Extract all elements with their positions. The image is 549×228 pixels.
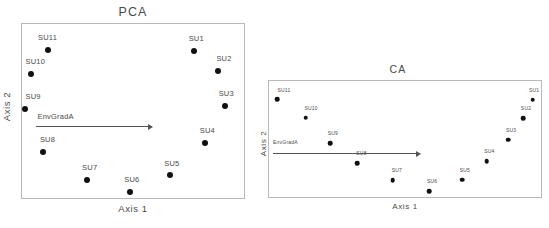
data-point-label: SU8	[40, 135, 55, 144]
data-point-label: SU10	[26, 57, 46, 66]
panel-pca-title: PCA	[21, 5, 245, 19]
data-point-label: SU2	[216, 54, 231, 63]
data-point[interactable]	[191, 48, 197, 54]
data-point[interactable]	[40, 149, 46, 155]
data-point-label: SU5	[164, 159, 179, 168]
data-point[interactable]	[355, 161, 360, 166]
data-point-label: SU6	[427, 178, 437, 184]
panel-pca-yaxis-label: Axis 2	[1, 81, 12, 133]
data-point-label: SU2	[521, 105, 531, 111]
data-point[interactable]	[202, 140, 208, 146]
data-point[interactable]	[222, 103, 228, 109]
data-point-label: SU11	[277, 87, 290, 93]
ordination-figure: PCA SU11 SU10 SU9 SU8 SU7 SU6 SU5	[0, 0, 549, 228]
data-point-label: SU10	[305, 105, 318, 111]
data-point[interactable]	[22, 106, 28, 112]
data-point[interactable]	[521, 116, 526, 121]
data-point[interactable]	[390, 178, 395, 183]
data-point[interactable]	[506, 137, 511, 142]
data-point[interactable]	[427, 189, 432, 194]
data-point[interactable]	[45, 47, 51, 53]
data-point[interactable]	[531, 97, 536, 102]
data-point-label: SU11	[38, 33, 57, 42]
data-point[interactable]	[167, 172, 173, 178]
data-point-label: SU1	[189, 34, 204, 43]
env-gradient-arrow-icon	[273, 153, 420, 154]
panel-ca-yaxis-label: Axis 2	[259, 115, 268, 173]
data-point[interactable]	[460, 177, 465, 182]
data-point-label: SU4	[484, 148, 494, 154]
data-point[interactable]	[127, 189, 133, 195]
data-point-label: SU3	[506, 127, 516, 133]
data-point-label: SU5	[460, 167, 470, 173]
data-point[interactable]	[328, 141, 333, 146]
data-point[interactable]	[215, 68, 221, 74]
data-point-label: SU7	[82, 163, 97, 172]
data-point-label: SU6	[124, 175, 139, 184]
panel-pca-xaxis-label: Axis 1	[21, 203, 245, 214]
panel-pca-plot-area: SU11 SU10 SU9 SU8 SU7 SU6 SU5 SU4 SU3	[21, 23, 245, 199]
env-gradient-label: EnvGradA	[38, 112, 74, 121]
data-point-label: SU7	[392, 167, 402, 173]
panel-ca-xaxis-label: Axis 1	[268, 202, 542, 211]
data-point-label: SU1	[529, 87, 539, 93]
data-point[interactable]	[303, 115, 308, 120]
data-point[interactable]	[484, 159, 489, 164]
env-gradient-arrow-icon	[36, 126, 151, 127]
data-point-label: SU9	[328, 130, 338, 136]
data-point-label: SU3	[219, 89, 234, 98]
data-point[interactable]	[84, 177, 90, 183]
panel-pca: PCA SU11 SU10 SU9 SU8 SU7 SU6 SU5	[0, 0, 258, 228]
data-point[interactable]	[28, 71, 34, 77]
data-point-label: SU9	[25, 92, 40, 101]
env-gradient-label: EnvGradA	[273, 139, 298, 145]
panel-ca-plot-area: SU11 SU10 SU9 SU8 SU7 SU6 SU5 SU4 SU3	[268, 80, 542, 198]
data-point[interactable]	[275, 97, 280, 102]
panel-ca: CA SU11 SU10 SU9 SU8 SU7 SU6 SU5	[258, 0, 549, 228]
data-point-label: SU4	[200, 126, 215, 135]
panel-ca-title: CA	[262, 63, 534, 75]
